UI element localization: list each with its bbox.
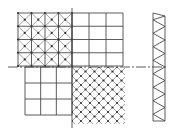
- lattice-node: [93, 115, 95, 117]
- lattice-node: [120, 88, 122, 90]
- lattice-node: [120, 97, 122, 99]
- lattice-node: [44, 52, 46, 54]
- lattice-node: [93, 79, 95, 81]
- lattice-node: [107, 93, 109, 95]
- lattice-node: [102, 70, 104, 72]
- lattice-member: [153, 40, 165, 47]
- lattice-node: [107, 120, 109, 122]
- lattice-node: [107, 84, 109, 86]
- lattice-node: [75, 79, 77, 81]
- lattice-member: [123, 67, 175, 124]
- lattice-member: [144, 67, 175, 124]
- lattice-node: [37, 45, 39, 47]
- lattice-node: [120, 79, 122, 81]
- lattice-node: [37, 32, 39, 34]
- grid-pattern-diagram: [0, 0, 175, 135]
- lattice-member: [153, 27, 165, 34]
- lattice-member: [96, 67, 153, 124]
- lattice-node: [37, 58, 39, 60]
- lattice-node: [17, 38, 19, 40]
- lattice-node: [51, 32, 53, 34]
- lattice-node: [93, 97, 95, 99]
- lattice-member: [153, 101, 165, 108]
- lattice-member: [153, 94, 165, 101]
- lattice-node: [98, 102, 100, 104]
- lattice-node: [64, 58, 66, 60]
- lattice-node: [51, 19, 53, 21]
- lattice-node: [111, 97, 113, 99]
- lattice-node: [80, 120, 82, 122]
- lattice-member: [153, 114, 165, 121]
- lattice-node: [80, 75, 82, 77]
- lattice-node: [44, 12, 46, 14]
- lattice-node: [75, 70, 77, 72]
- lattice-node: [107, 111, 109, 113]
- lattice-node: [102, 106, 104, 108]
- lattice-node: [120, 106, 122, 108]
- lattice-node: [107, 75, 109, 77]
- lattice-node: [98, 84, 100, 86]
- lattice-node: [17, 25, 19, 27]
- lattice-node: [57, 12, 59, 14]
- lattice-node: [116, 84, 118, 86]
- lattice-node: [89, 111, 91, 113]
- lattice-node: [30, 25, 32, 27]
- lattice-member: [153, 13, 165, 16]
- lattice-member: [153, 67, 165, 74]
- lattice-node: [107, 102, 109, 104]
- lattice-node: [51, 58, 53, 60]
- lattice-member: [153, 60, 165, 67]
- lattice-node: [98, 111, 100, 113]
- lattice-node: [80, 84, 82, 86]
- lattice-member: [153, 74, 165, 81]
- lattice-node: [116, 120, 118, 122]
- lattice-node: [17, 12, 19, 14]
- lattice-node: [89, 75, 91, 77]
- lattice-member: [171, 67, 175, 124]
- lattice-node: [57, 52, 59, 54]
- lattice-node: [102, 79, 104, 81]
- lattice-member: [153, 20, 165, 27]
- lattice-node: [98, 75, 100, 77]
- lattice-node: [89, 120, 91, 122]
- lattice-node: [120, 70, 122, 72]
- lattice-member: [87, 67, 144, 124]
- lattice-node: [75, 97, 77, 99]
- lattice-member: [153, 33, 165, 40]
- lattice-node: [64, 32, 66, 34]
- lattice-node: [24, 45, 26, 47]
- lattice-node: [120, 115, 122, 117]
- lattice-member: [0, 67, 21, 124]
- lattice-member: [78, 67, 135, 124]
- lattice-node: [80, 93, 82, 95]
- lattice-node: [111, 79, 113, 81]
- lattice-node: [89, 84, 91, 86]
- lattice-node: [24, 32, 26, 34]
- lattice-node: [89, 102, 91, 104]
- lattice-node: [75, 115, 77, 117]
- lattice-node: [102, 88, 104, 90]
- lattice-node: [84, 106, 86, 108]
- lattice-node: [93, 88, 95, 90]
- lattice-node: [111, 88, 113, 90]
- lattice-node: [80, 102, 82, 104]
- lattice-node: [102, 97, 104, 99]
- lattice-node: [64, 19, 66, 21]
- lattice-node: [30, 52, 32, 54]
- lattice-member: [153, 47, 165, 54]
- lattice-node: [89, 93, 91, 95]
- lattice-node: [24, 19, 26, 21]
- lattice-member: [126, 67, 175, 124]
- lattice-node: [37, 19, 39, 21]
- lattice-node: [84, 97, 86, 99]
- lattice-node: [116, 75, 118, 77]
- lattice-node: [93, 106, 95, 108]
- lattice-member: [162, 67, 175, 124]
- upper-left-x-braced-grid: [17, 12, 73, 67]
- lattice-node: [111, 115, 113, 117]
- lattice-node: [17, 52, 19, 54]
- lattice-member: [0, 67, 18, 124]
- lattice-node: [116, 102, 118, 104]
- lattice-node: [84, 115, 86, 117]
- lattice-node: [44, 25, 46, 27]
